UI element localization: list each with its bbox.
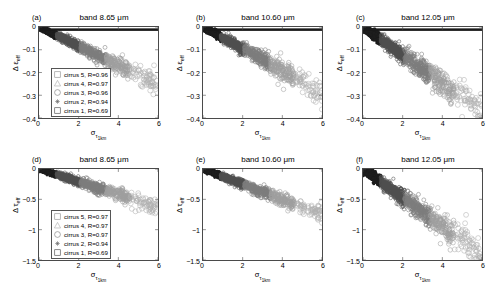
y-tick-label: −1.5 bbox=[186, 258, 200, 265]
panel-e: (e)band 10.60 μm0−0.5−1−1.50246Δ τeffστ1… bbox=[170, 144, 335, 288]
x-axis-label: στ1km bbox=[38, 128, 159, 141]
legend-label: cirrus 2, R=0.94 bbox=[64, 97, 108, 106]
x-axis-label: στ1km bbox=[362, 128, 483, 141]
panel-a: (a)band 8.65 μm0−0.1−0.2−0.3−0.40246Δ εe… bbox=[6, 2, 171, 146]
legend: cirrus 5, R=0.97cirrus 4, R=0.97cirrus 3… bbox=[51, 210, 111, 259]
legend-star-icon bbox=[53, 97, 64, 106]
legend-item: cirrus 5, R=0.96 bbox=[53, 70, 108, 79]
y-tick-label: −0.1 bbox=[346, 46, 360, 53]
x-tick-label: 0 bbox=[200, 262, 204, 269]
x-tick-label: 6 bbox=[157, 262, 161, 269]
y-tick-label: −0.1 bbox=[22, 46, 36, 53]
plot-area bbox=[202, 168, 323, 261]
y-tick-label: −1 bbox=[352, 227, 360, 234]
legend-circle-open-icon bbox=[53, 230, 64, 239]
x-tick-label: 0 bbox=[200, 120, 204, 127]
x-tick-label: 4 bbox=[117, 120, 121, 127]
y-axis-label: Δ εeff bbox=[335, 35, 346, 91]
legend-label: cirrus 4, R=0.97 bbox=[64, 221, 108, 230]
panel-letter: (c) bbox=[356, 13, 365, 22]
x-tick-label: 2 bbox=[400, 120, 404, 127]
panel-letter: (d) bbox=[32, 155, 41, 164]
y-tick-label: −1 bbox=[28, 227, 36, 234]
y-tick-label: 0 bbox=[32, 23, 36, 30]
legend-item: cirrus 1, R=0.69 bbox=[53, 248, 108, 257]
x-axis-label: στ1km bbox=[362, 270, 483, 283]
y-tick-label: −1.5 bbox=[346, 258, 360, 265]
y-axis-label: Δ εeff bbox=[175, 35, 186, 91]
y-tick-label: −0.4 bbox=[346, 116, 360, 123]
x-tick-label: 6 bbox=[321, 262, 325, 269]
panel-title: band 8.65 μm bbox=[44, 13, 164, 22]
x-tick-label: 4 bbox=[117, 262, 121, 269]
panel-c: (c)band 12.05 μm0−0.1−0.2−0.3−0.40246Δ ε… bbox=[330, 2, 495, 146]
legend-label: cirrus 1, R=0.69 bbox=[64, 248, 108, 257]
panel-title: band 10.60 μm bbox=[208, 155, 328, 164]
panel-letter: (a) bbox=[32, 13, 41, 22]
x-tick-label: 4 bbox=[441, 120, 445, 127]
y-tick-label: 0 bbox=[356, 165, 360, 172]
plot-area bbox=[362, 26, 483, 119]
legend-star-icon bbox=[53, 239, 64, 248]
legend-triangle-open-icon bbox=[53, 79, 64, 88]
legend-square-open-icon bbox=[53, 212, 64, 221]
panel-title: band 12.05 μm bbox=[368, 13, 488, 22]
panel-letter: (e) bbox=[196, 155, 205, 164]
y-tick-label: 0 bbox=[356, 23, 360, 30]
x-tick-label: 6 bbox=[481, 262, 485, 269]
y-tick-label: −1 bbox=[192, 227, 200, 234]
x-tick-label: 0 bbox=[360, 262, 364, 269]
x-tick-label: 4 bbox=[281, 262, 285, 269]
plot-area bbox=[202, 26, 323, 119]
y-tick-label: −0.4 bbox=[186, 116, 200, 123]
plot-area bbox=[362, 168, 483, 261]
y-tick-label: −0.5 bbox=[346, 196, 360, 203]
y-tick-label: 0 bbox=[196, 165, 200, 172]
y-tick-label: −0.4 bbox=[22, 116, 36, 123]
legend: cirrus 5, R=0.96cirrus 4, R=0.97cirrus 3… bbox=[51, 68, 111, 117]
y-axis-label: Δ εeff bbox=[11, 35, 22, 91]
y-tick-label: −0.3 bbox=[346, 92, 360, 99]
panel-b: (b)band 10.60 μm0−0.1−0.2−0.3−0.40246Δ ε… bbox=[170, 2, 335, 146]
legend-label: cirrus 1, R=0.69 bbox=[64, 106, 108, 115]
legend-item: cirrus 5, R=0.97 bbox=[53, 212, 108, 221]
panel-title: band 10.60 μm bbox=[208, 13, 328, 22]
x-axis-label: στ1km bbox=[202, 128, 323, 141]
panel-f: (f)band 12.05 μm0−0.5−1−1.50246Δ τeffστ1… bbox=[330, 144, 495, 288]
x-tick-label: 0 bbox=[360, 120, 364, 127]
x-tick-label: 6 bbox=[481, 120, 485, 127]
legend-triangle-open-icon bbox=[53, 221, 64, 230]
y-tick-label: 0 bbox=[196, 23, 200, 30]
y-axis-label: Δ τeff bbox=[11, 177, 22, 233]
y-tick-label: 0 bbox=[32, 165, 36, 172]
legend-circle-open-icon bbox=[53, 88, 64, 97]
x-tick-label: 0 bbox=[36, 120, 40, 127]
x-tick-label: 6 bbox=[321, 120, 325, 127]
legend-label: cirrus 2, R=0.94 bbox=[64, 239, 108, 248]
legend-label: cirrus 5, R=0.96 bbox=[64, 70, 108, 79]
y-tick-label: −0.2 bbox=[22, 69, 36, 76]
y-tick-label: −0.5 bbox=[22, 196, 36, 203]
legend-item: cirrus 2, R=0.94 bbox=[53, 97, 108, 106]
legend-label: cirrus 5, R=0.97 bbox=[64, 212, 108, 221]
y-tick-label: −1.5 bbox=[22, 258, 36, 265]
legend-item: cirrus 3, R=0.97 bbox=[53, 230, 108, 239]
panel-d: (d)band 8.65 μm0−0.5−1−1.50246Δ τeffστ1k… bbox=[6, 144, 171, 288]
legend-item: cirrus 4, R=0.97 bbox=[53, 221, 108, 230]
y-axis-label: Δ τeff bbox=[175, 177, 186, 233]
panel-title: band 12.05 μm bbox=[368, 155, 488, 164]
x-tick-label: 4 bbox=[281, 120, 285, 127]
x-axis-label: στ1km bbox=[38, 270, 159, 283]
legend-item: cirrus 2, R=0.94 bbox=[53, 239, 108, 248]
x-tick-label: 6 bbox=[157, 120, 161, 127]
legend-square-open-icon bbox=[53, 248, 64, 257]
x-tick-label: 4 bbox=[441, 262, 445, 269]
x-tick-label: 2 bbox=[76, 120, 80, 127]
legend-label: cirrus 3, R=0.97 bbox=[64, 230, 108, 239]
legend-label: cirrus 3, R=0.96 bbox=[64, 88, 108, 97]
y-tick-label: −0.2 bbox=[346, 69, 360, 76]
y-tick-label: −0.3 bbox=[186, 92, 200, 99]
panel-title: band 8.65 μm bbox=[44, 155, 164, 164]
legend-square-open-icon bbox=[53, 70, 64, 79]
legend-item: cirrus 1, R=0.69 bbox=[53, 106, 108, 115]
